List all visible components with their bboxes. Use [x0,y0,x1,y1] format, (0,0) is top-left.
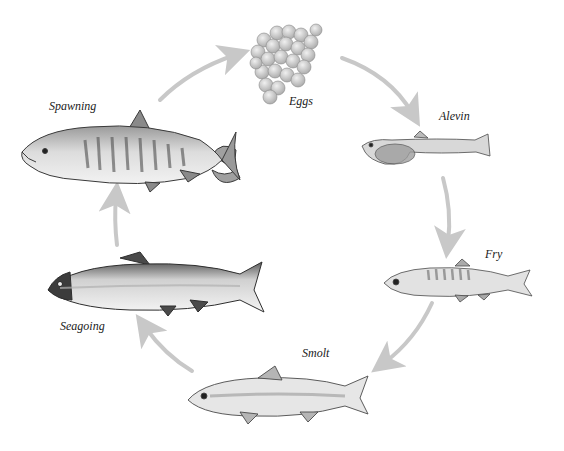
stage-label-spawning: Spawning [49,99,96,114]
arrow-fry-to-smolt [384,303,432,363]
arrow-eggs-to-alevin [342,58,412,113]
arrow-alevin-to-fry [443,178,449,243]
fry-illustration [384,259,532,302]
cycle-arrows [115,55,449,371]
spawning-salmon-illustration [22,110,240,192]
alevin-illustration [362,131,490,164]
smolt-illustration [188,366,368,424]
arrow-spawning-to-eggs [160,55,235,100]
stage-label-eggs: Eggs [289,94,313,109]
seagoing-salmon-illustration [48,252,264,316]
arrow-smolt-to-seagoing [145,327,192,371]
salmon-life-cycle-diagram: Eggs Alevin Fry Smolt Seagoing Spawning [0,0,564,451]
arrow-seagoing-to-spawning [115,197,117,245]
stage-label-seagoing: Seagoing [60,319,105,334]
diagram-graphics [0,0,564,451]
stage-label-fry: Fry [485,247,502,262]
stage-label-smolt: Smolt [302,346,329,361]
eggs-cluster-illustration [250,24,322,104]
stage-label-alevin: Alevin [439,109,470,124]
